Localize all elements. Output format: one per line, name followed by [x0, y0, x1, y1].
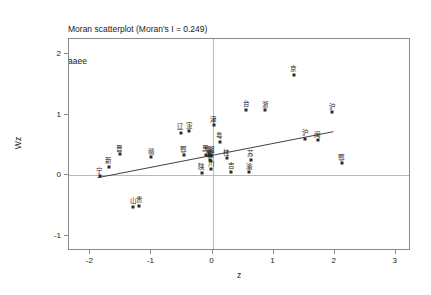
data-point	[245, 108, 248, 111]
data-point-label: 津	[210, 116, 217, 123]
moran-scatterplot-figure: Moran scatterplot (Moran's I = 0.249) aa…	[0, 0, 431, 295]
data-point	[225, 157, 228, 160]
data-point	[316, 139, 319, 142]
data-point-label: 贵	[136, 197, 143, 204]
x-axis-tick	[89, 250, 90, 254]
y-axis-tick	[64, 53, 68, 54]
data-point-label: 新	[105, 158, 112, 165]
data-point	[182, 154, 185, 157]
data-point-label: 吉	[228, 163, 235, 170]
page-title: Moran scatterplot (Moran's I = 0.249)	[68, 24, 207, 35]
x-axis-tick-label: -2	[86, 256, 93, 265]
y-axis-tick-label: 2	[57, 49, 61, 58]
y-axis-tick-label: 0	[57, 170, 61, 179]
y-axis-tick-label: -1	[54, 230, 61, 239]
data-point-label: 辽	[177, 124, 184, 131]
data-point	[210, 168, 213, 171]
data-point-label: 川	[208, 160, 215, 167]
data-point-label: 鄂	[338, 154, 345, 161]
data-point-label: 晋	[116, 145, 123, 152]
data-point-label: 粤	[216, 133, 223, 140]
y-axis-tick-label: 1	[57, 109, 61, 118]
x-axis-tick	[334, 250, 335, 254]
data-point	[249, 158, 252, 161]
x-axis-tick-label: 1	[270, 256, 274, 265]
x-axis-title: z	[237, 270, 241, 280]
x-axis-tick-label: 3	[392, 256, 396, 265]
data-point	[188, 130, 191, 133]
x-axis-tick	[273, 250, 274, 254]
data-point	[132, 205, 135, 208]
data-point-label: 陕	[198, 164, 205, 171]
data-point	[230, 170, 233, 173]
y-axis-title: Wz	[13, 137, 23, 149]
data-point-label: 鄂	[180, 146, 187, 153]
data-point	[248, 171, 251, 174]
data-point-label: 苏	[247, 151, 254, 158]
data-point-label: 桂	[223, 149, 230, 156]
data-point	[150, 156, 153, 159]
data-point-label: 渝	[246, 163, 253, 170]
data-point	[218, 140, 221, 143]
x-axis-tick-label: 0	[209, 256, 213, 265]
data-point-label: 沪	[302, 130, 309, 137]
data-point	[292, 73, 295, 76]
data-point-label: 台	[243, 101, 250, 108]
data-point-label: 宁	[96, 167, 103, 174]
data-point	[212, 124, 215, 127]
data-point	[118, 153, 121, 156]
x-axis-tick-label: -1	[147, 256, 154, 265]
data-point-label: 浙	[262, 101, 269, 108]
data-point-label: 闽	[314, 131, 321, 138]
x-axis-tick	[395, 250, 396, 254]
x-axis-tick	[212, 250, 213, 254]
y-axis-tick	[64, 174, 68, 175]
y-axis-tick	[64, 114, 68, 115]
data-point	[138, 204, 141, 207]
data-point	[340, 162, 343, 165]
data-point	[107, 165, 110, 168]
y-axis-tick	[64, 235, 68, 236]
x-axis-tick	[150, 250, 151, 254]
data-point	[200, 171, 203, 174]
data-point-label: 京	[290, 66, 297, 73]
data-point	[98, 175, 101, 178]
data-point	[179, 131, 182, 134]
data-point-label: 寁	[186, 122, 193, 129]
data-point	[331, 111, 334, 114]
data-point	[264, 109, 267, 112]
plot-area: 京沪台浙津辽寁粤沪闽晋赣鄂黑鲁湘豫冀桂苏新川陕吉渝鄂宁山贵	[68, 38, 410, 250]
data-point-label: 赣	[148, 148, 155, 155]
data-point-label: 冀	[207, 152, 214, 159]
data-point-label: 沪	[329, 103, 336, 110]
x-axis-tick-label: 2	[331, 256, 335, 265]
data-point	[304, 137, 307, 140]
